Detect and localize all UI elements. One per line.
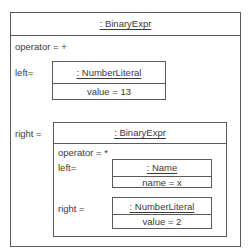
root-operator-label: operator = + bbox=[15, 41, 67, 52]
right-number-literal-title: : NumberLiteral bbox=[130, 201, 195, 212]
inner-operator-label: operator = * bbox=[58, 147, 108, 158]
left-number-literal-title: : NumberLiteral bbox=[77, 67, 142, 78]
name-title: : Name bbox=[147, 162, 178, 173]
right-number-literal-title-container: : NumberLiteral bbox=[112, 201, 212, 212]
name-value: name = x bbox=[112, 177, 212, 188]
inner-right-label: right = bbox=[58, 203, 85, 214]
inner-binary-expr-title-container: : BinaryExpr bbox=[53, 127, 227, 138]
root-header-divider bbox=[10, 35, 241, 36]
root-title: : BinaryExpr bbox=[100, 18, 152, 29]
root-right-label: right = bbox=[15, 128, 42, 139]
left-number-literal-divider bbox=[52, 83, 166, 84]
root-left-label: left= bbox=[15, 67, 33, 78]
left-number-literal-value: value = 13 bbox=[52, 86, 166, 97]
name-title-container: : Name bbox=[112, 162, 212, 173]
inner-left-label: left= bbox=[58, 162, 76, 173]
left-number-literal-title-container: : NumberLiteral bbox=[52, 67, 166, 78]
right-number-literal-divider bbox=[112, 214, 212, 215]
inner-binary-expr-header-divider bbox=[53, 143, 227, 144]
right-number-literal-value: value = 2 bbox=[112, 216, 212, 227]
root-title-container: : BinaryExpr bbox=[10, 18, 241, 29]
inner-binary-expr-title: : BinaryExpr bbox=[114, 127, 166, 138]
